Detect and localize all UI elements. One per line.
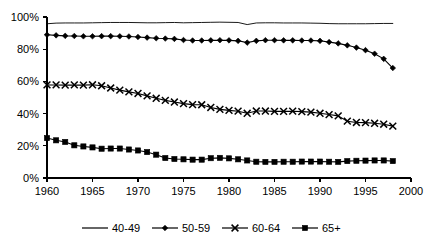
data-point-marker xyxy=(108,33,114,39)
data-point-marker xyxy=(126,147,131,152)
data-point-marker xyxy=(72,143,77,148)
series-65plus xyxy=(44,135,395,164)
legend-item-40-49[interactable]: 40-49 xyxy=(82,222,140,234)
data-point-marker xyxy=(54,138,59,143)
data-point-marker xyxy=(244,40,250,46)
data-point-marker xyxy=(199,157,204,162)
data-point-marker xyxy=(281,38,287,44)
data-point-marker xyxy=(372,51,378,57)
data-point-marker xyxy=(72,33,78,39)
data-point-marker xyxy=(363,158,368,163)
data-point-marker xyxy=(181,157,186,162)
data-point-marker xyxy=(363,47,369,53)
data-point-marker xyxy=(99,146,104,151)
data-point-marker xyxy=(44,135,49,140)
data-point-marker xyxy=(336,159,341,164)
data-point-marker xyxy=(254,38,260,44)
data-point-marker xyxy=(145,149,150,154)
data-point-marker xyxy=(172,36,178,42)
data-point-marker xyxy=(126,34,132,40)
data-point-marker xyxy=(317,38,323,44)
series-group xyxy=(44,22,397,164)
series-50-59 xyxy=(44,32,395,71)
data-point-marker xyxy=(172,156,177,161)
data-point-marker xyxy=(163,36,169,42)
y-tick-label: 100% xyxy=(11,11,39,23)
line-chart: 0%20%40%60%80%100% 196019651970197519801… xyxy=(0,0,426,246)
x-tick-label: 1965 xyxy=(80,185,104,197)
data-point-marker xyxy=(81,34,87,40)
data-point-marker xyxy=(345,158,350,163)
data-point-marker xyxy=(181,37,187,43)
x-axis-ticks: 196019651970197519801985199019952000 xyxy=(35,178,423,197)
data-point-marker xyxy=(254,159,259,164)
data-point-marker xyxy=(208,156,213,161)
data-point-marker xyxy=(299,38,305,44)
data-point-marker xyxy=(236,157,241,162)
data-point-marker xyxy=(226,38,232,44)
data-point-marker xyxy=(327,159,332,164)
data-point-marker xyxy=(99,33,105,39)
data-point-marker xyxy=(217,37,223,43)
series-40-49 xyxy=(47,22,393,24)
data-point-marker xyxy=(354,45,360,51)
data-point-marker xyxy=(62,33,68,39)
y-axis-ticks: 0%20%40%60%80%100% xyxy=(11,11,47,184)
data-point-marker xyxy=(317,159,322,164)
x-tick-label: 2000 xyxy=(399,185,423,197)
legend-item-label: 65+ xyxy=(322,222,341,234)
data-point-marker xyxy=(235,38,241,44)
legend-marker-swatch xyxy=(162,225,168,231)
data-point-marker xyxy=(272,159,277,164)
chart-container: 0%20%40%60%80%100% 196019651970197519801… xyxy=(0,0,426,246)
data-point-marker xyxy=(163,155,168,160)
data-point-marker xyxy=(81,144,86,149)
y-tick-label: 0% xyxy=(23,172,39,184)
data-point-marker xyxy=(53,33,59,39)
y-tick-label: 60% xyxy=(17,75,39,87)
data-point-marker xyxy=(144,35,150,41)
data-point-marker xyxy=(226,156,231,161)
legend-marker-swatch xyxy=(302,225,307,230)
y-tick-label: 20% xyxy=(17,140,39,152)
data-point-marker xyxy=(199,38,205,44)
data-point-marker xyxy=(153,35,159,41)
data-point-marker xyxy=(108,146,113,151)
series-line xyxy=(47,22,393,24)
x-tick-label: 1960 xyxy=(35,185,59,197)
x-tick-label: 1970 xyxy=(126,185,150,197)
y-tick-label: 80% xyxy=(17,43,39,55)
data-point-marker xyxy=(208,38,214,44)
data-point-marker xyxy=(245,158,250,163)
legend-item-60-64[interactable]: 60-64 xyxy=(222,222,280,234)
data-point-marker xyxy=(90,145,95,150)
x-tick-label: 1995 xyxy=(353,185,377,197)
data-point-marker xyxy=(90,34,96,40)
legend-item-label: 50-59 xyxy=(182,222,210,234)
data-point-marker xyxy=(345,43,351,49)
y-tick-label: 40% xyxy=(17,108,39,120)
data-point-marker xyxy=(308,38,314,44)
data-point-marker xyxy=(190,157,195,162)
data-point-marker xyxy=(117,146,122,151)
data-point-marker xyxy=(217,155,222,160)
x-tick-label: 1990 xyxy=(308,185,332,197)
legend-item-label: 60-64 xyxy=(252,222,280,234)
x-tick-label: 1985 xyxy=(262,185,286,197)
data-point-marker xyxy=(308,159,313,164)
series-line xyxy=(47,85,393,126)
data-point-marker xyxy=(144,92,151,99)
x-tick-label: 1975 xyxy=(171,185,195,197)
data-point-marker xyxy=(135,148,140,153)
legend-item-50-59[interactable]: 50-59 xyxy=(152,222,210,234)
data-point-marker xyxy=(372,158,377,163)
data-point-marker xyxy=(390,158,395,163)
x-tick-label: 1980 xyxy=(217,185,241,197)
legend-item-65plus[interactable]: 65+ xyxy=(292,222,341,234)
data-point-marker xyxy=(290,159,295,164)
data-point-marker xyxy=(190,38,196,44)
data-point-marker xyxy=(299,159,304,164)
chart-legend: 40-4950-5960-6465+ xyxy=(82,222,341,234)
data-point-marker xyxy=(335,41,341,47)
legend-item-label: 40-49 xyxy=(112,222,140,234)
